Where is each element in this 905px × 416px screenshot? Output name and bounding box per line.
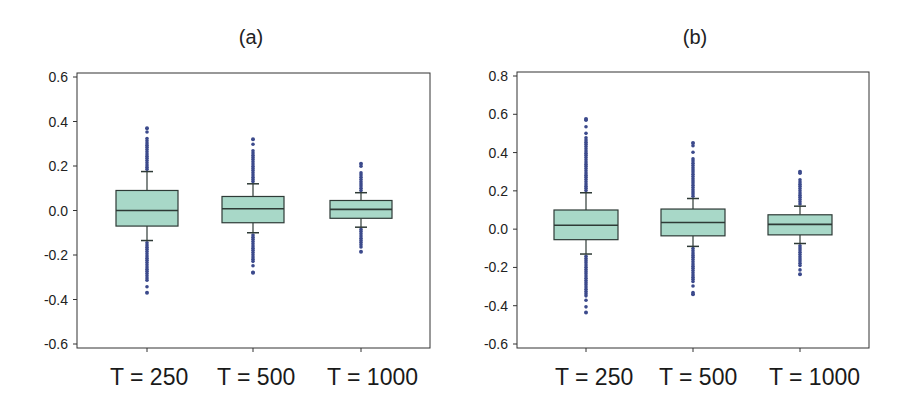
outlier-point [798, 178, 802, 182]
outlier-point [798, 268, 802, 272]
panel-a: (a) -0.6-0.4-0.20.00.20.40.6 T = 250 T =… [0, 0, 450, 416]
outlier-point [251, 149, 255, 153]
outlier-point [798, 170, 802, 174]
box-t250 [554, 117, 618, 314]
outlier-point [251, 271, 255, 275]
outlier-point [584, 305, 588, 309]
y-tick-label: -0.6 [484, 336, 508, 352]
outlier-point [798, 264, 802, 268]
box-t1000 [768, 170, 832, 276]
outlier-point [145, 291, 149, 295]
y-tick-label: -0.2 [484, 259, 508, 275]
box-t250 [116, 126, 178, 295]
outlier-point [798, 272, 802, 276]
outlier-point [584, 125, 588, 129]
outlier-point [359, 162, 363, 166]
x-category-label: T = 250 [110, 364, 188, 391]
outlier-point [145, 126, 149, 130]
outlier-point [251, 264, 255, 268]
outlier-point [691, 141, 695, 145]
outlier-point [145, 278, 149, 282]
y-tick-label: 0.2 [489, 183, 509, 199]
box-t500 [661, 141, 725, 296]
outlier-point [251, 260, 255, 264]
outlier-point [359, 245, 363, 249]
outlier-point [691, 151, 695, 155]
y-tick-label: 0.6 [489, 106, 509, 122]
outlier-point [145, 130, 149, 134]
outlier-point [584, 310, 588, 314]
outlier-point [145, 137, 149, 141]
y-tick-label: -0.2 [44, 247, 68, 263]
box-t1000 [330, 162, 392, 254]
y-tick-label: -0.4 [484, 298, 508, 314]
outlier-point [691, 157, 695, 161]
iqr-box [116, 190, 178, 226]
outlier-point [691, 284, 695, 288]
boxplot-a: -0.6-0.4-0.20.00.20.40.6 [0, 0, 450, 416]
outlier-point [691, 292, 695, 296]
box-t500 [222, 137, 284, 274]
x-category-label: T = 1000 [327, 364, 418, 391]
boxplot-b: -0.6-0.4-0.20.00.20.40.60.8 [450, 0, 905, 416]
outlier-point [584, 132, 588, 136]
y-tick-label: 0.4 [489, 145, 509, 161]
y-tick-label: 0.4 [49, 114, 69, 130]
outlier-point [359, 250, 363, 254]
panel-b: (b) -0.6-0.4-0.20.00.20.40.60.8 T = 250 … [450, 0, 905, 416]
x-category-label: T = 500 [659, 364, 737, 391]
outlier-point [584, 136, 588, 140]
outlier-point [584, 294, 588, 298]
x-category-label: T = 250 [555, 364, 633, 391]
outlier-point [251, 137, 255, 141]
y-tick-label: 0.2 [49, 158, 69, 174]
outlier-point [691, 280, 695, 284]
y-tick-label: -0.4 [44, 292, 68, 308]
outlier-point [359, 171, 363, 175]
y-tick-label: -0.6 [44, 336, 68, 352]
iqr-box [222, 196, 284, 222]
outlier-point [584, 117, 588, 121]
y-tick-label: 0.6 [49, 69, 69, 85]
y-tick-label: 0.0 [489, 221, 509, 237]
outlier-point [145, 285, 149, 289]
y-tick-label: 0.0 [49, 203, 69, 219]
outlier-point [584, 298, 588, 302]
y-tick-label: 0.8 [489, 68, 509, 84]
x-category-label: T = 500 [217, 364, 295, 391]
outlier-point [251, 142, 255, 146]
x-category-label: T = 1000 [769, 364, 860, 391]
